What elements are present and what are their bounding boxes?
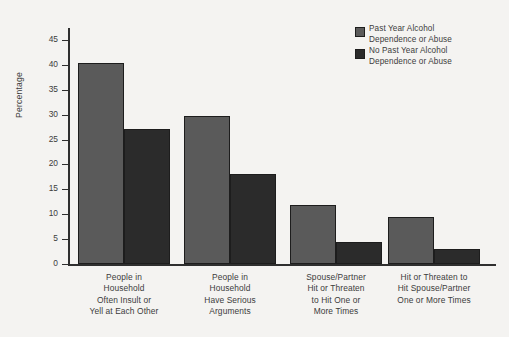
y-tick-40: 40 <box>62 65 68 66</box>
bar-group-2 <box>184 28 276 264</box>
y-tick-0: 0 <box>62 264 68 265</box>
category-label-1-line-3: Often Insult or <box>64 295 184 306</box>
y-tick-label-15: 15 <box>49 183 58 193</box>
bar-group-1 <box>78 28 170 264</box>
y-tick-35: 35 <box>62 90 68 91</box>
y-tick-15: 15 <box>62 189 68 190</box>
y-tick-label-20: 20 <box>49 158 58 168</box>
bar-group-4 <box>388 28 480 264</box>
category-label-2-line-1: People in <box>170 272 290 283</box>
category-label-2-line-3: Have Serious <box>170 295 290 306</box>
category-label-2: People inHouseholdHave SeriousArguments <box>170 272 290 318</box>
y-tick-label-30: 30 <box>49 109 58 119</box>
category-label-2-line-4: Arguments <box>170 306 290 317</box>
y-tick-25: 25 <box>62 140 68 141</box>
y-tick-45: 45 <box>62 40 68 41</box>
bar-group-2-series-1 <box>184 116 230 264</box>
y-axis-line <box>68 28 70 266</box>
bar-group-1-series-1 <box>78 63 124 264</box>
bar-group-2-series-2 <box>230 174 276 264</box>
y-axis-title: Percentage <box>14 72 24 118</box>
category-label-1: People inHouseholdOften Insult orYell at… <box>64 272 184 318</box>
y-tick-label-25: 25 <box>49 134 58 144</box>
y-tick-5: 5 <box>62 239 68 240</box>
y-tick-label-0: 0 <box>53 258 58 268</box>
category-label-4-line-2: Hit Spouse/Partner <box>374 283 494 294</box>
category-label-4-line-3: One or More Times <box>374 295 494 306</box>
y-tick-label-45: 45 <box>49 34 58 44</box>
bar-group-1-series-2 <box>124 129 170 264</box>
bar-group-3 <box>290 28 382 264</box>
y-tick-label-35: 35 <box>49 84 58 94</box>
bar-chart-figure: Past Year Alcohol Dependence or Abuse No… <box>0 0 509 337</box>
plot-area: 051015202530354045 <box>68 28 496 266</box>
y-tick-20: 20 <box>62 164 68 165</box>
bar-group-4-series-2 <box>434 249 480 264</box>
category-label-2-line-2: Household <box>170 283 290 294</box>
y-tick-30: 30 <box>62 115 68 116</box>
y-tick-label-5: 5 <box>53 233 58 243</box>
category-label-4: Hit or Threaten toHit Spouse/PartnerOne … <box>374 272 494 306</box>
y-tick-label-10: 10 <box>49 208 58 218</box>
bar-group-3-series-2 <box>336 242 382 264</box>
y-tick-label-40: 40 <box>49 59 58 69</box>
y-tick-10: 10 <box>62 214 68 215</box>
category-label-1-line-2: Household <box>64 283 184 294</box>
x-axis-category-labels: People inHouseholdOften Insult orYell at… <box>68 272 496 334</box>
category-label-1-line-1: People in <box>64 272 184 283</box>
x-axis-line <box>68 264 496 266</box>
category-label-4-line-1: Hit or Threaten to <box>374 272 494 283</box>
category-label-1-line-4: Yell at Each Other <box>64 306 184 317</box>
bar-group-4-series-1 <box>388 217 434 264</box>
category-label-3-line-4: More Times <box>276 306 396 317</box>
bar-group-3-series-1 <box>290 205 336 264</box>
